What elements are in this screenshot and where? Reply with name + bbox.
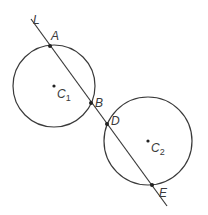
label-c1: C1 (57, 87, 71, 103)
label-l: L (33, 13, 40, 27)
diagram-canvas: L A B D E C1 C2 (0, 0, 208, 215)
point-d (105, 122, 109, 126)
label-d: D (111, 114, 120, 128)
label-b: B (95, 96, 103, 110)
label-c2: C2 (151, 141, 165, 157)
point-a (48, 44, 52, 48)
point-b (89, 101, 93, 105)
center-c1-dot (52, 84, 55, 87)
label-e: E (159, 186, 168, 200)
center-c2-dot (146, 139, 149, 142)
point-e (150, 183, 154, 187)
label-a: A (50, 29, 59, 43)
